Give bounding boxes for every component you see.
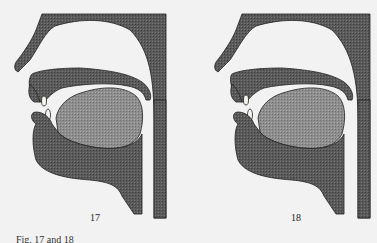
tongue-shape	[56, 88, 143, 149]
figure-18: 18	[188, 0, 377, 220]
figure-caption: Fig. 17 and 18	[16, 233, 376, 243]
upper-tooth	[244, 95, 249, 105]
vocal-tract-diagram	[0, 0, 190, 220]
pharynx-wall	[358, 100, 370, 218]
upper-tooth	[42, 96, 47, 106]
figure-17: 17	[0, 0, 190, 220]
tongue-shape	[258, 88, 345, 149]
figure-number: 17	[75, 212, 115, 223]
pharynx-wall	[154, 100, 166, 218]
figure-number: 18	[276, 212, 316, 223]
vocal-tract-diagram	[188, 0, 377, 220]
